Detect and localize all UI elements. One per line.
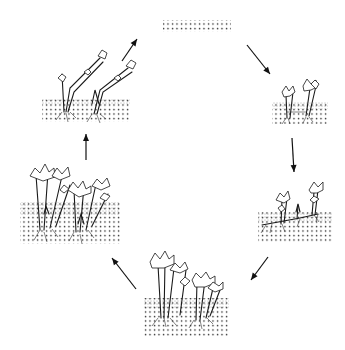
plant-life-cycle-diagram xyxy=(0,0,345,350)
arrow-icon xyxy=(83,134,89,160)
soil-surface-senescent-stems xyxy=(42,98,130,105)
soil-patches xyxy=(20,20,333,336)
diagram-canvas xyxy=(0,0,345,350)
arrow-icon xyxy=(251,257,268,280)
arrow-icon xyxy=(247,45,270,74)
soil-surface-spreading-rhizome xyxy=(258,212,333,221)
arrow-icon xyxy=(112,258,136,289)
soil-surface-young-shoots xyxy=(272,102,328,109)
soil-surface-mature-stand xyxy=(20,202,120,215)
soil-patch-bare-soil xyxy=(163,20,231,32)
cycle-arrows xyxy=(83,39,297,289)
arrow-icon xyxy=(291,138,297,172)
arrow-icon xyxy=(122,39,137,61)
